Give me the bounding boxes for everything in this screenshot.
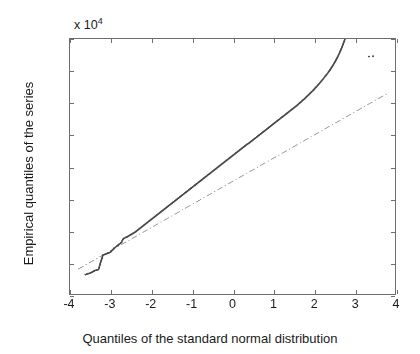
x-axis-tick bbox=[70, 290, 71, 294]
y-axis-exponent-label: x 104 bbox=[74, 16, 103, 32]
y-axis-tick bbox=[391, 71, 395, 72]
y-axis-title: Empirical quantiles of the series bbox=[21, 54, 36, 294]
x-axis-tick bbox=[111, 290, 112, 294]
x-axis-tick bbox=[234, 39, 235, 43]
plot-area bbox=[69, 38, 396, 295]
x-axis-tick bbox=[193, 39, 194, 43]
x-axis-tick-label: -3 bbox=[104, 297, 115, 311]
x-axis-tick bbox=[356, 290, 357, 294]
x-axis-tick bbox=[315, 39, 316, 43]
x-axis-tick bbox=[111, 39, 112, 43]
x-axis-tick-label: -2 bbox=[145, 297, 156, 311]
qq-plot-figure: x 104 Quantiles of the standard normal d… bbox=[0, 0, 420, 354]
y-axis-tick bbox=[391, 168, 395, 169]
x-axis-tick bbox=[274, 290, 275, 294]
y-axis-tick bbox=[70, 135, 74, 136]
x-axis-tick bbox=[274, 39, 275, 43]
y-axis-tick bbox=[70, 71, 74, 72]
x-axis-tick bbox=[356, 39, 357, 43]
y-axis-tick bbox=[391, 39, 395, 40]
x-axis-tick bbox=[397, 290, 398, 294]
y-axis-tick bbox=[70, 264, 74, 265]
y-axis-tick bbox=[391, 264, 395, 265]
x-axis-tick-label: -1 bbox=[186, 297, 197, 311]
x-axis-tick-label: 4 bbox=[393, 297, 400, 311]
x-axis-tick-label: 1 bbox=[270, 297, 277, 311]
x-axis-tick bbox=[152, 39, 153, 43]
y-axis-tick bbox=[70, 39, 74, 40]
y-axis-tick bbox=[391, 232, 395, 233]
x-axis-tick-label: -4 bbox=[63, 297, 74, 311]
x-axis-tick bbox=[152, 290, 153, 294]
y-axis-tick bbox=[70, 232, 74, 233]
y-axis-exponent-power: 4 bbox=[98, 16, 103, 26]
y-axis-tick bbox=[391, 200, 395, 201]
y-axis-tick bbox=[391, 135, 395, 136]
y-axis-tick bbox=[70, 168, 74, 169]
data-canvas bbox=[70, 39, 395, 294]
x-axis-tick bbox=[193, 290, 194, 294]
y-axis-tick bbox=[391, 103, 395, 104]
x-axis-tick bbox=[315, 290, 316, 294]
x-axis-tick bbox=[234, 290, 235, 294]
y-axis-exponent-mantissa: x 10 bbox=[74, 18, 98, 32]
x-axis-tick-label: 0 bbox=[229, 297, 236, 311]
x-axis-tick-label: 2 bbox=[311, 297, 318, 311]
y-axis-tick bbox=[70, 103, 74, 104]
x-axis-tick bbox=[397, 39, 398, 43]
x-axis-tick-label: 3 bbox=[352, 297, 359, 311]
x-axis-title: Quantiles of the standard normal distrib… bbox=[0, 331, 420, 346]
y-axis-tick bbox=[70, 200, 74, 201]
